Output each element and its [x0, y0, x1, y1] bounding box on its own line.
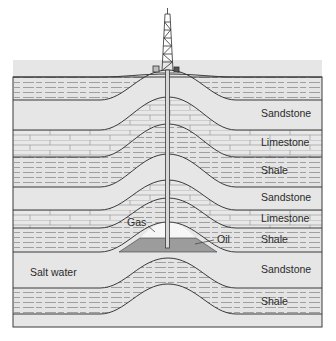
label-salt-water: Salt water — [30, 267, 77, 278]
label-limestone-1: Limestone — [261, 137, 309, 148]
label-oil: Oil — [217, 234, 230, 245]
well-pipe — [166, 70, 170, 248]
label-shale-1: Shale — [261, 165, 288, 176]
label-sandstone-2: Sandstone — [261, 192, 311, 203]
label-sandstone-1: Sandstone — [261, 108, 311, 119]
label-gas: Gas — [127, 217, 146, 228]
label-shale-3: Shale — [261, 296, 288, 307]
label-limestone-2: Limestone — [261, 213, 309, 224]
label-sandstone-3: Sandstone — [261, 264, 311, 275]
label-shale-2: Shale — [261, 234, 288, 245]
